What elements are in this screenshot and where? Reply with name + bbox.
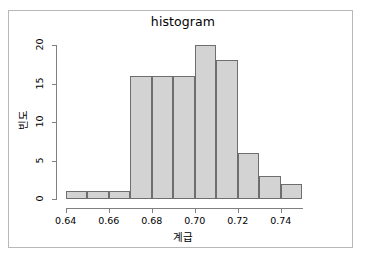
histogram-bar	[259, 176, 281, 199]
x-axis-line	[66, 208, 303, 209]
x-axis-tick-label: 0.70	[175, 215, 215, 226]
chart-title: histogram	[0, 14, 366, 29]
histogram-bar	[66, 191, 88, 199]
x-axis-tick	[195, 209, 196, 213]
histogram-bar	[87, 191, 109, 199]
histogram-bar	[109, 191, 131, 199]
histogram-bar	[281, 184, 303, 199]
y-axis-tick-label: 10	[34, 110, 45, 134]
histogram-bar	[195, 45, 217, 199]
x-axis-tick	[281, 209, 282, 213]
histogram-plot-area	[56, 45, 312, 199]
histogram-bar	[130, 76, 152, 199]
x-axis-title: 계급	[0, 229, 366, 244]
x-axis-tick	[66, 209, 67, 213]
x-axis-tick	[152, 209, 153, 213]
x-axis-tick-label: 0.74	[261, 215, 301, 226]
x-axis-tick-label: 0.64	[46, 215, 86, 226]
x-axis-tick-label: 0.68	[132, 215, 172, 226]
y-axis-title: 빈도	[15, 110, 30, 130]
histogram-bar	[238, 153, 260, 199]
histogram-bar	[216, 60, 238, 199]
x-axis-tick	[238, 209, 239, 213]
x-axis-tick	[109, 209, 110, 213]
y-axis-tick-label: 20	[34, 33, 45, 57]
y-axis-tick-label: 15	[34, 71, 45, 95]
x-axis-tick-label: 0.66	[89, 215, 129, 226]
y-axis-tick-label: 0	[34, 187, 45, 211]
x-axis-tick-label: 0.72	[218, 215, 258, 226]
histogram-bar	[173, 76, 195, 199]
y-axis-tick	[52, 199, 56, 200]
y-axis-tick-label: 5	[34, 148, 45, 172]
histogram-bar	[152, 76, 174, 199]
